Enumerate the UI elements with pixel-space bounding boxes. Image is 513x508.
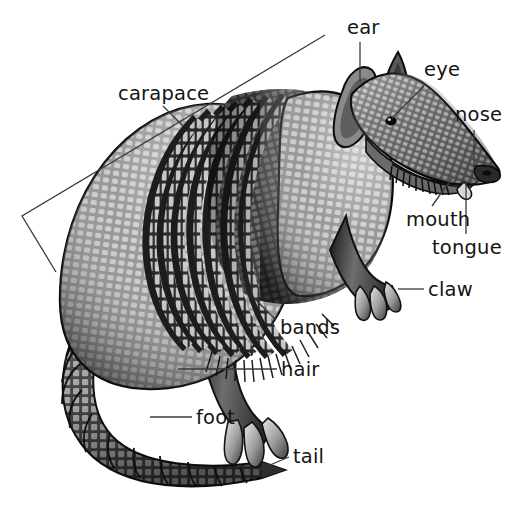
- eye-part: [385, 117, 396, 126]
- label-hair: hair: [281, 360, 320, 380]
- label-foot: foot: [196, 408, 235, 428]
- label-claw: claw: [428, 280, 473, 300]
- label-eye: eye: [424, 60, 460, 80]
- label-nose: nose: [455, 105, 502, 125]
- label-mouth: mouth: [406, 210, 470, 230]
- label-bands: bands: [280, 318, 340, 338]
- label-carapace: carapace: [118, 84, 209, 104]
- diagram-canvas: carapaceeareyenosemouthtongueclawbandsha…: [0, 0, 513, 508]
- label-tail: tail: [293, 447, 324, 467]
- label-tongue: tongue: [432, 238, 502, 258]
- label-ear: ear: [347, 18, 380, 38]
